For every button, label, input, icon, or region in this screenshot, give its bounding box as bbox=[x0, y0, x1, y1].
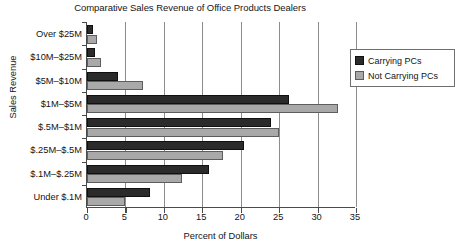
x-tick-label-10: 10 bbox=[148, 212, 178, 222]
bar-group bbox=[87, 95, 355, 114]
legend-swatch-icon-not-carrying-pcs bbox=[355, 71, 364, 80]
y-axis-label-3: $1M–$5M bbox=[0, 99, 82, 109]
x-tick-label-0: 0 bbox=[71, 212, 101, 222]
plot-area: Carrying PCs Not Carrying PCs bbox=[86, 22, 355, 208]
bar-carrying-pcs bbox=[87, 141, 244, 150]
chart-title: Comparative Sales Revenue of Office Prod… bbox=[0, 2, 380, 13]
bar-not-carrying-pcs bbox=[87, 81, 143, 90]
bar-groups bbox=[87, 22, 355, 207]
bar-not-carrying-pcs bbox=[87, 128, 279, 137]
y-axis-label-7: Under $.1M bbox=[0, 192, 82, 202]
y-tick bbox=[82, 162, 87, 163]
bar-carrying-pcs bbox=[87, 165, 209, 174]
y-tick bbox=[82, 185, 87, 186]
bar-group bbox=[87, 165, 355, 184]
x-axis-title: Percent of Dollars bbox=[86, 231, 355, 241]
bar-not-carrying-pcs bbox=[87, 174, 182, 183]
legend-label-not-carrying-pcs: Not Carrying PCs bbox=[368, 71, 438, 81]
bar-group bbox=[87, 188, 355, 207]
bar-carrying-pcs bbox=[87, 188, 150, 197]
bar-carrying-pcs bbox=[87, 72, 118, 81]
bar-not-carrying-pcs bbox=[87, 35, 97, 44]
bar-not-carrying-pcs bbox=[87, 104, 338, 113]
bar-group bbox=[87, 118, 355, 137]
x-tick-label-30: 30 bbox=[302, 212, 332, 222]
y-tick bbox=[82, 69, 87, 70]
legend-label-carrying-pcs: Carrying PCs bbox=[368, 56, 422, 66]
y-axis-label-0: Over $25M bbox=[0, 29, 82, 39]
y-axis-label-1: $10M–$25M bbox=[0, 52, 82, 62]
legend: Carrying PCs Not Carrying PCs bbox=[350, 49, 455, 87]
x-tick-label-20: 20 bbox=[225, 212, 255, 222]
bar-carrying-pcs bbox=[87, 118, 271, 127]
bar-group bbox=[87, 72, 355, 91]
y-tick bbox=[82, 115, 87, 116]
bar-not-carrying-pcs bbox=[87, 197, 125, 206]
y-tick bbox=[82, 92, 87, 93]
legend-item-not-carrying-pcs: Not Carrying PCs bbox=[355, 68, 450, 83]
x-tick-label-35: 35 bbox=[340, 212, 370, 222]
legend-swatch-icon-carrying-pcs bbox=[355, 56, 364, 65]
bar-not-carrying-pcs bbox=[87, 151, 223, 160]
y-tick bbox=[82, 45, 87, 46]
bar-not-carrying-pcs bbox=[87, 58, 101, 67]
y-axis-label-6: $.1M–$.25M bbox=[0, 169, 82, 179]
y-tick bbox=[82, 22, 87, 23]
bar-group bbox=[87, 48, 355, 67]
bar-group bbox=[87, 141, 355, 160]
bar-carrying-pcs bbox=[87, 48, 95, 57]
y-axis-label-5: $.25M–$.5M bbox=[0, 145, 82, 155]
bar-carrying-pcs bbox=[87, 95, 289, 104]
x-tick-label-5: 5 bbox=[109, 212, 139, 222]
bar-carrying-pcs bbox=[87, 25, 93, 34]
y-axis-label-2: $5M–$10M bbox=[0, 76, 82, 86]
bar-group bbox=[87, 25, 355, 44]
y-tick bbox=[82, 138, 87, 139]
x-tick-label-25: 25 bbox=[263, 212, 293, 222]
x-tick-label-15: 15 bbox=[186, 212, 216, 222]
legend-item-carrying-pcs: Carrying PCs bbox=[355, 53, 450, 68]
y-axis-label-4: $.5M–$1M bbox=[0, 122, 82, 132]
